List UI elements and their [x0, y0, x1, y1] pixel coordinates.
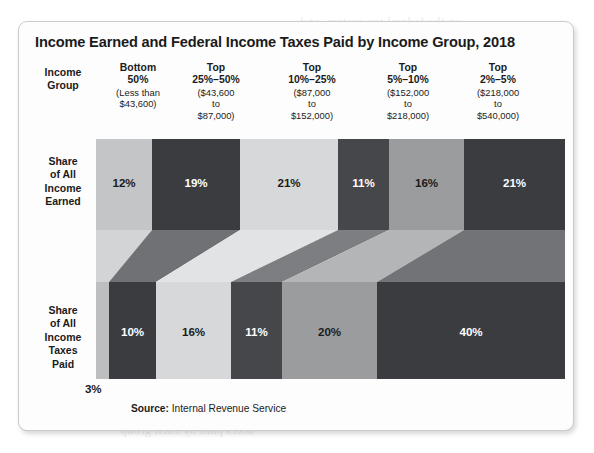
value-label-taxes-6: 40% [377, 325, 565, 338]
value-label-taxes-4: 11% [231, 325, 282, 338]
source-note: Source: Internal Revenue Service [131, 403, 286, 414]
value-label-taxes-3: 16% [156, 325, 231, 338]
value-label-taxes-2: 10% [109, 325, 156, 338]
value-label-earned-1: 12% [96, 176, 152, 189]
value-label-taxes-1: 3% [85, 382, 125, 395]
bottom-band-bar-1 [96, 282, 109, 379]
chart-card: Income Earned and Federal Income Taxes P… [18, 21, 574, 431]
value-label-taxes-5: 20% [282, 325, 377, 338]
value-label-earned-3: 21% [240, 176, 338, 189]
value-label-earned-6: 21% [464, 176, 565, 189]
source-value: Internal Revenue Service [169, 403, 286, 414]
value-label-earned-5: 16% [389, 176, 464, 189]
source-label: Source: [131, 403, 169, 414]
flow-chart-plot [19, 22, 574, 431]
value-label-earned-4: 11% [338, 176, 389, 189]
value-label-earned-2: 19% [152, 176, 240, 189]
